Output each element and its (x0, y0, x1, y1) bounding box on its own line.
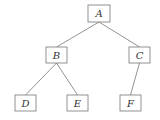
node-d-label: D (20, 98, 29, 109)
node-b: B (46, 47, 67, 63)
edge-b-e (57, 63, 78, 95)
node-e-label: E (73, 98, 82, 109)
node-a-label: A (94, 8, 102, 19)
edge-b-d (26, 63, 57, 95)
edge-a-c (99, 22, 140, 47)
nodes: A B C D E F (15, 5, 150, 111)
node-c-label: C (136, 50, 144, 61)
node-c: C (129, 47, 150, 63)
tree-diagram: A B C D E F (0, 0, 160, 120)
node-f: F (120, 95, 141, 111)
node-e: E (67, 95, 88, 111)
node-f-label: F (126, 98, 135, 109)
node-a: A (88, 5, 110, 22)
edges (26, 22, 140, 95)
node-b-label: B (52, 50, 60, 61)
edge-a-b (57, 22, 100, 47)
edge-c-f (131, 63, 140, 95)
node-d: D (15, 95, 36, 111)
